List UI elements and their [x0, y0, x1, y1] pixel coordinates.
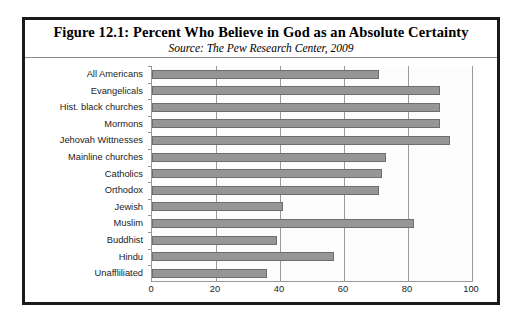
- bar-row: [152, 249, 472, 266]
- bar: [152, 153, 386, 162]
- x-tick-label: 80: [402, 284, 412, 294]
- bar-row: [152, 66, 472, 83]
- value-axis-labels: 020406080100: [151, 284, 471, 300]
- category-label: Catholics: [25, 166, 147, 183]
- category-tick: [148, 232, 152, 233]
- category-label: Buddhist: [25, 232, 147, 249]
- bar: [152, 269, 267, 278]
- x-tick-label: 20: [210, 284, 220, 294]
- bar: [152, 86, 440, 95]
- x-tick-label: 40: [274, 284, 284, 294]
- bar: [152, 169, 382, 178]
- category-tick: [148, 132, 152, 133]
- category-label: Hindu: [25, 249, 147, 266]
- figure-title-block: Figure 12.1: Percent Who Believe in God …: [25, 20, 497, 58]
- bar-row: [152, 215, 472, 232]
- x-tick-label: 100: [463, 284, 479, 294]
- bar: [152, 186, 379, 195]
- category-label: Unaffliliated: [25, 265, 147, 282]
- category-tick: [148, 249, 152, 250]
- category-label: Orthodox: [25, 182, 147, 199]
- bar-row: [152, 166, 472, 183]
- bar-row: [152, 182, 472, 199]
- bar: [152, 219, 414, 228]
- bar: [152, 119, 440, 128]
- category-label: Hist. black churches: [25, 99, 147, 116]
- chart-plot-region: All AmericansEvangelicalsHist. black chu…: [25, 64, 497, 302]
- category-axis-labels: All AmericansEvangelicalsHist. black chu…: [25, 66, 147, 282]
- bar: [152, 103, 440, 112]
- category-tick: [148, 215, 152, 216]
- category-tick: [148, 116, 152, 117]
- category-label: Mormons: [25, 116, 147, 133]
- category-tick: [148, 265, 152, 266]
- gridline: [472, 66, 473, 282]
- chart-bars: [152, 66, 472, 282]
- figure-frame: Figure 12.1: Percent Who Believe in God …: [22, 17, 500, 305]
- category-label: All Americans: [25, 66, 147, 83]
- bar: [152, 202, 283, 211]
- chart-plot-area: [151, 66, 472, 282]
- bar-row: [152, 132, 472, 149]
- bar: [152, 252, 334, 261]
- category-label: Muslim: [25, 215, 147, 232]
- category-label: Mainline churches: [25, 149, 147, 166]
- category-tick: [148, 66, 152, 67]
- category-label: Evangelicals: [25, 83, 147, 100]
- x-tick-label: 0: [148, 284, 153, 294]
- category-label: Jehovah Wittnesses: [25, 132, 147, 149]
- bar: [152, 136, 450, 145]
- bar-row: [152, 116, 472, 133]
- bar-row: [152, 232, 472, 249]
- bar: [152, 236, 277, 245]
- x-axis-line: [152, 281, 472, 283]
- bar-row: [152, 199, 472, 216]
- bar-row: [152, 83, 472, 100]
- category-tick: [148, 199, 152, 200]
- bar-row: [152, 99, 472, 116]
- category-tick: [148, 182, 152, 183]
- bar-row: [152, 265, 472, 282]
- category-tick: [148, 99, 152, 100]
- category-tick: [148, 166, 152, 167]
- page-title: Figure 12.1: Percent Who Believe in God …: [31, 24, 491, 41]
- bar: [152, 70, 379, 79]
- category-tick: [148, 149, 152, 150]
- x-tick-label: 60: [338, 284, 348, 294]
- figure-source-line: Source: The Pew Research Center, 2009: [31, 42, 491, 54]
- bar-row: [152, 149, 472, 166]
- category-tick: [148, 83, 152, 84]
- category-label: Jewish: [25, 199, 147, 216]
